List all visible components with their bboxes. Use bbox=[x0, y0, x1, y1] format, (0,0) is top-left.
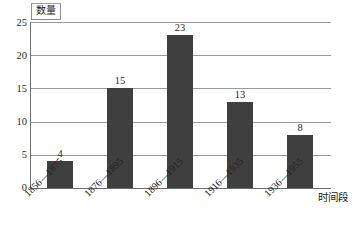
y-axis-tick-label: 25 bbox=[5, 18, 27, 29]
y-axis-tick-label: 10 bbox=[5, 117, 27, 128]
bar-value-label: 13 bbox=[235, 90, 246, 101]
y-axis-tick-label: 20 bbox=[5, 51, 27, 62]
bar-value-label: 23 bbox=[175, 23, 186, 34]
x-axis-title: 时间段 bbox=[318, 189, 348, 204]
y-axis-tick-label: 5 bbox=[5, 150, 27, 161]
bar-value-label: 15 bbox=[115, 76, 126, 87]
bar-value-label: 8 bbox=[297, 123, 302, 134]
x-axis-line bbox=[30, 188, 331, 189]
y-axis-tick-label: 15 bbox=[5, 84, 27, 95]
y-axis-title: 数量 bbox=[31, 3, 61, 20]
bar-chart: 25 20 15 10 5 0 4 15 23 13 bbox=[0, 0, 363, 247]
